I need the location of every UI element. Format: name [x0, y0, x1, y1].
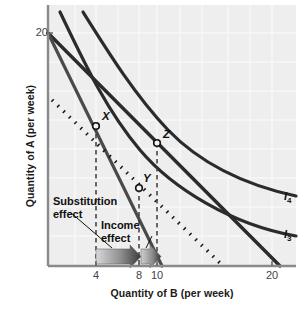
- curve-label-i4-sub: 4: [287, 196, 291, 205]
- x-axis-title: Quantity of B (per week): [48, 287, 296, 299]
- income-effect-line1: Income: [101, 219, 140, 232]
- y-axis-title: Quantity of A (per week): [24, 46, 36, 246]
- x-tick-label-20: 20: [260, 269, 284, 281]
- curve-label-i3-sub: 3: [287, 234, 291, 243]
- chart-canvas: [0, 0, 308, 313]
- income-effect-label: Income effect: [101, 219, 140, 244]
- point-marker-z: [154, 140, 161, 147]
- income-effect-line2: effect: [101, 232, 140, 245]
- substitution-effect-line1: Substitution: [53, 195, 117, 208]
- x-tick-label-4: 4: [84, 269, 108, 281]
- point-label-y: Y: [143, 172, 151, 184]
- curve-label-i3: I3: [284, 228, 292, 243]
- point-marker-y: [136, 185, 143, 192]
- substitution-effect-label: Substitution effect: [53, 195, 117, 220]
- indifference-curve-figure: Quantity of A (per week) Quantity of B (…: [0, 0, 308, 313]
- point-label-x: X: [102, 110, 110, 122]
- curve-label-i4: I4: [284, 190, 292, 205]
- point-label-z: Z: [163, 128, 170, 140]
- y-tick-label-20: 20: [28, 26, 48, 38]
- x-tick-label-10: 10: [145, 269, 169, 281]
- point-marker-x: [93, 123, 100, 130]
